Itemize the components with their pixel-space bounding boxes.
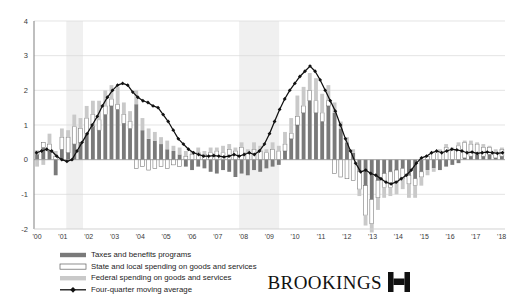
legend-swatch-dark bbox=[60, 253, 86, 257]
bar-segment-federal bbox=[240, 142, 244, 147]
bar-segment-taxes bbox=[246, 160, 250, 176]
bar-segment-state_local bbox=[339, 160, 343, 177]
bar-segment-taxes bbox=[97, 130, 101, 159]
y-tick-label: -1 bbox=[21, 190, 28, 199]
bar-segment-taxes bbox=[326, 106, 330, 160]
bar-segment-taxes bbox=[419, 160, 423, 172]
bar-segment-taxes bbox=[209, 160, 213, 172]
bar-segment-state_local bbox=[271, 149, 275, 159]
bar-segment-state_local bbox=[66, 137, 70, 153]
bar-segment-taxes bbox=[333, 113, 337, 160]
y-tick-label: 4 bbox=[24, 17, 28, 26]
bar-segment-federal bbox=[184, 151, 188, 156]
bar-segment-taxes bbox=[215, 160, 219, 174]
bar-segment-taxes bbox=[203, 160, 207, 169]
bar-segment-taxes bbox=[370, 160, 374, 200]
bar-segment-taxes bbox=[271, 160, 275, 167]
bar-segment-federal bbox=[283, 132, 287, 144]
bar-segment-taxes bbox=[395, 160, 399, 170]
x-tick-label: '17 bbox=[471, 233, 480, 240]
bar-segment-federal bbox=[178, 148, 182, 155]
bar-segment-state_local bbox=[264, 153, 268, 160]
bar-segment-state_local bbox=[302, 106, 306, 113]
bar-segment-taxes bbox=[172, 151, 176, 160]
bar-segment-taxes bbox=[320, 122, 324, 160]
bar-segment-state_local bbox=[79, 128, 83, 142]
legend-label: Federal spending on goods and services bbox=[91, 273, 232, 282]
bar-segment-state_local bbox=[320, 113, 324, 122]
x-tick-label: '05 bbox=[162, 233, 171, 240]
bar-segment-federal bbox=[432, 168, 436, 171]
bar-segment-federal bbox=[252, 142, 256, 149]
bar-segment-state_local bbox=[419, 172, 423, 177]
x-tick-label: '03 bbox=[110, 233, 119, 240]
bar-segment-taxes bbox=[364, 160, 368, 186]
bar-segment-taxes bbox=[481, 156, 485, 159]
bar-segment-taxes bbox=[227, 160, 231, 172]
brookings-wordmark: BROOKINGS bbox=[268, 272, 382, 293]
bar-segment-federal bbox=[500, 148, 504, 150]
bar-segment-taxes bbox=[240, 160, 244, 174]
x-tick-label: '08 bbox=[239, 233, 248, 240]
bar-segment-taxes bbox=[116, 109, 120, 159]
bar-segment-state_local bbox=[345, 160, 349, 179]
bar-segment-federal bbox=[320, 94, 324, 113]
bar-segment-taxes bbox=[159, 144, 163, 160]
x-tick-label: '16 bbox=[445, 233, 454, 240]
y-tick-label: 0 bbox=[24, 155, 28, 164]
x-tick-label: '13 bbox=[368, 233, 377, 240]
bar-segment-state_local bbox=[308, 90, 312, 100]
bar-segment-taxes bbox=[314, 113, 318, 160]
bar-segment-state_local bbox=[116, 104, 120, 109]
bar-segment-taxes bbox=[450, 160, 454, 165]
bar-segment-state_local bbox=[463, 142, 467, 158]
bar-segment-state_local bbox=[190, 154, 194, 159]
bar-segment-federal bbox=[41, 160, 45, 165]
bar-segment-federal bbox=[172, 146, 176, 151]
bar-segment-federal bbox=[72, 115, 76, 127]
bar-segment-federal bbox=[122, 102, 126, 114]
bar-segment-state_local bbox=[413, 179, 417, 186]
bar-segment-federal bbox=[302, 87, 306, 106]
bar-segment-taxes bbox=[438, 160, 442, 170]
bar-segment-federal bbox=[264, 149, 268, 152]
x-tick-label: '04 bbox=[136, 233, 145, 240]
bar-segment-federal bbox=[209, 148, 213, 153]
bar-segment-state_local bbox=[227, 149, 231, 159]
bar-segment-federal bbox=[314, 78, 318, 101]
y-tick-label: -2 bbox=[21, 225, 28, 234]
bar-segment-state_local bbox=[364, 186, 368, 215]
bar-segment-federal bbox=[277, 146, 281, 151]
bar-segment-state_local bbox=[376, 180, 380, 197]
bar-segment-federal bbox=[419, 177, 423, 186]
bar-segment-federal bbox=[388, 187, 392, 196]
bar-segment-state_local bbox=[444, 148, 448, 160]
bar-segment-taxes bbox=[289, 139, 293, 160]
x-tick-label: '11 bbox=[317, 233, 326, 240]
bar-segment-federal bbox=[469, 141, 473, 144]
bar-segment-taxes bbox=[401, 160, 405, 169]
legend-swatch-outlined bbox=[60, 264, 86, 269]
bar-segment-taxes bbox=[457, 160, 461, 163]
bar-segment-state_local bbox=[457, 146, 461, 160]
bar-segment-state_local bbox=[283, 144, 287, 151]
bar-segment-federal bbox=[147, 128, 151, 138]
y-tick-label: 1 bbox=[24, 121, 28, 130]
bar-segment-taxes bbox=[488, 154, 492, 159]
bar-segment-taxes bbox=[91, 127, 95, 160]
bar-segment-taxes bbox=[500, 156, 504, 159]
bar-segment-taxes bbox=[110, 106, 114, 160]
bar-segment-federal bbox=[35, 160, 39, 167]
bar-segment-federal bbox=[413, 186, 417, 198]
bar-segment-taxes bbox=[426, 160, 430, 170]
bar-segment-taxes bbox=[388, 160, 392, 172]
bar-segment-federal bbox=[227, 144, 231, 149]
bar-segment-taxes bbox=[66, 153, 70, 160]
bar-segment-state_local bbox=[60, 137, 64, 149]
bar-segment-state_local bbox=[450, 149, 454, 159]
bar-segment-state_local bbox=[333, 160, 337, 174]
bar-segment-federal bbox=[196, 148, 200, 153]
bar-segment-federal bbox=[79, 118, 83, 128]
legend-label: Four-quarter moving average bbox=[91, 285, 192, 294]
bar-segment-federal bbox=[407, 184, 411, 198]
